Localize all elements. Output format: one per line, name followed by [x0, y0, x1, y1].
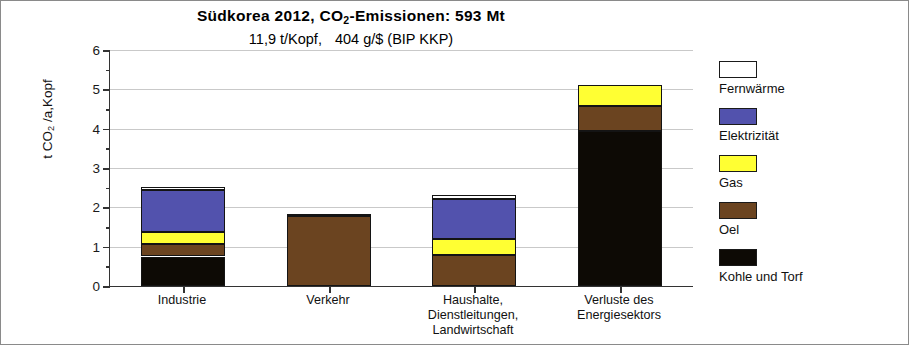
category-label-line: Verluste des	[524, 293, 714, 308]
bar-segment	[287, 214, 371, 216]
legend-swatch	[719, 155, 757, 172]
bar-segment	[432, 239, 516, 255]
chart-title-post: -Emissionen: 593 Mt	[349, 7, 505, 24]
bar-segment	[432, 199, 516, 239]
y-axis-tick-mark	[103, 207, 110, 209]
y-axis-tick-label: 5	[92, 82, 100, 97]
y-axis-title: t CO2 /a,Kopf	[40, 79, 57, 158]
y-axis-tick-mark	[103, 168, 110, 170]
category-label-line: Energiesektors	[524, 308, 714, 323]
bar-segment	[141, 257, 225, 287]
y-axis-tick-label: 0	[92, 279, 100, 294]
y-axis-minor-tick-mark	[106, 188, 110, 190]
legend-label: Fernwärme	[719, 81, 785, 96]
bar-segment	[578, 85, 662, 105]
bar-2	[287, 50, 371, 286]
y-axis-tick-label: 2	[92, 200, 100, 215]
chart-subtitle-per-capita: 11,9 t/Kopf,	[249, 31, 322, 47]
x-axis-tick-mark	[620, 286, 622, 293]
y-axis-minor-tick-mark	[106, 266, 110, 268]
x-axis-tick-mark	[329, 286, 331, 293]
chart-subtitle: 11,9 t/Kopf,404 g/$ (BIP KKP)	[71, 31, 631, 47]
y-axis-tick-label: 3	[92, 161, 100, 176]
bar-3	[432, 50, 516, 286]
y-axis-tick-mark	[103, 247, 110, 249]
y-axis-minor-tick-mark	[106, 109, 110, 111]
plot-area: 0123456	[109, 50, 693, 287]
chart-title-pre: Südkorea 2012, CO	[197, 7, 343, 24]
y-axis-tick-mark	[103, 286, 110, 288]
y-axis-tick-label: 6	[92, 43, 100, 58]
bar-segment	[287, 216, 371, 286]
y-axis-title-pre: t CO	[40, 131, 55, 159]
y-axis-tick-mark	[103, 89, 110, 91]
y-axis-minor-tick-mark	[106, 70, 110, 72]
bar-segment	[141, 244, 225, 257]
legend-label: Oel	[719, 222, 757, 237]
bar-segment	[432, 255, 516, 286]
legend-swatch	[719, 61, 757, 78]
legend-item[interactable]: Kohle und Torf	[719, 249, 803, 284]
bar-segment	[432, 195, 516, 199]
legend-swatch	[719, 108, 757, 125]
y-axis-title-post: /a,Kopf	[40, 79, 55, 126]
category-label-line: Landwirtschaft	[378, 323, 568, 338]
bar-1	[141, 50, 225, 286]
bar-segment	[578, 131, 662, 286]
legend-item[interactable]: Oel	[719, 202, 757, 237]
x-axis-tick-mark	[183, 286, 185, 293]
y-axis-tick-mark	[103, 129, 110, 131]
bar-segment	[141, 187, 225, 190]
y-axis-title-subscript: 2	[46, 126, 56, 131]
bar-segment	[141, 232, 225, 244]
chart-subtitle-intensity: 404 g/$ (BIP KKP)	[335, 31, 453, 47]
chart-title-block: Südkorea 2012, CO2-Emissionen: 593 Mt 11…	[71, 7, 631, 47]
bar-4	[578, 50, 662, 286]
legend-label: Kohle und Torf	[719, 269, 803, 284]
y-axis-tick-label: 4	[92, 121, 100, 136]
bar-segment	[141, 190, 225, 232]
y-axis-minor-tick-mark	[106, 148, 110, 150]
x-axis-category-label: Verluste desEnergiesektors	[524, 293, 714, 323]
x-axis-tick-mark	[474, 286, 476, 293]
legend-label: Gas	[719, 175, 757, 190]
legend-item[interactable]: Elektrizität	[719, 108, 779, 143]
chart-figure: Südkorea 2012, CO2-Emissionen: 593 Mt 11…	[0, 0, 909, 345]
chart-title: Südkorea 2012, CO2-Emissionen: 593 Mt	[71, 7, 631, 26]
legend-item[interactable]: Gas	[719, 155, 757, 190]
legend-label: Elektrizität	[719, 128, 779, 143]
bar-segment	[578, 106, 662, 131]
legend-item[interactable]: Fernwärme	[719, 61, 785, 96]
y-axis-tick-mark	[103, 50, 110, 52]
legend-swatch	[719, 249, 757, 266]
y-axis-tick-label: 1	[92, 239, 100, 254]
y-axis-minor-tick-mark	[106, 227, 110, 229]
legend-swatch	[719, 202, 757, 219]
